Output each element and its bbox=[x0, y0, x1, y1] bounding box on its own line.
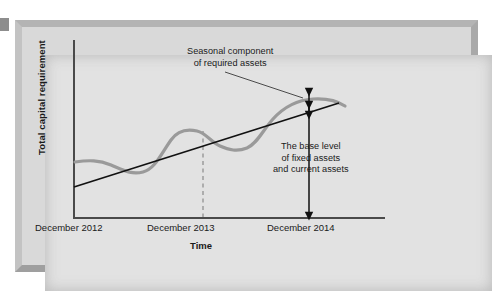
figure-container: Total capital requirement December 2012 … bbox=[0, 0, 498, 293]
seasonal-component-annotation: Seasonal component of required assets bbox=[187, 46, 273, 69]
base-annotation-line-3: and current assets bbox=[273, 164, 349, 176]
seasonal-annotation-line-2: of required assets bbox=[187, 58, 273, 70]
page-edge-marker bbox=[0, 18, 9, 31]
base-annotation-line-1: The base level bbox=[273, 141, 349, 153]
plot-area: Total capital requirement December 2012 … bbox=[15, 20, 478, 272]
seasonal-annotation-leader bbox=[225, 72, 303, 98]
seasonal-annotation-line-1: Seasonal component bbox=[187, 46, 273, 58]
base-level-annotation: The base level of fixed assets and curre… bbox=[273, 141, 349, 176]
base-annotation-line-2: of fixed assets bbox=[273, 153, 349, 165]
